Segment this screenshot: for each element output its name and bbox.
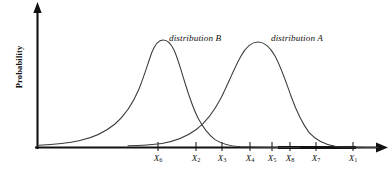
probability-distribution-figure: Probability distribution B distribution … (0, 0, 392, 175)
tick-label-x2: X2 (192, 153, 201, 163)
tick-label-x7: X7 (312, 153, 321, 163)
curve-distribution-a (128, 42, 378, 148)
tick-label-x3: X3 (218, 153, 227, 163)
y-axis-arrowhead (33, 2, 41, 13)
plot-area (0, 0, 392, 175)
curve-distribution-b (39, 40, 300, 148)
tick-label-x1: X1 (349, 153, 358, 163)
distribution-a-label: distribution A (271, 33, 323, 43)
tick-label-x4: X4 (246, 153, 255, 163)
distribution-b-label: distribution B (169, 33, 221, 43)
y-axis-label: Probability (14, 27, 24, 107)
tick-label-x5: X5 (268, 153, 277, 163)
tick-label-x6: X6 (154, 153, 163, 163)
tick-label-x8: X8 (286, 153, 295, 163)
